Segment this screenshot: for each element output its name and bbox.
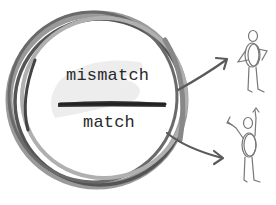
arrow-up-right-icon (178, 58, 227, 90)
fraction-diagram: mismatch match (0, 0, 276, 205)
numerator-label: mismatch (66, 66, 149, 85)
denominator-label: match (83, 113, 135, 132)
stick-figure-cheering-icon (227, 108, 260, 182)
diagram-canvas (0, 0, 276, 205)
stick-figure-holding-ring-icon (238, 31, 267, 93)
